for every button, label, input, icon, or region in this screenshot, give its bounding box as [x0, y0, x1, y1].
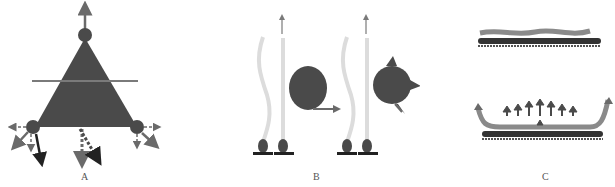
cell-motion-diagram — [205, 0, 420, 187]
right-arrow-icon — [333, 105, 341, 113]
triangle-shape — [35, 38, 137, 127]
left-node-icon — [26, 120, 40, 134]
substrate-bottom — [482, 131, 603, 137]
wavy-layer — [480, 31, 590, 33]
top-node-icon — [78, 28, 92, 42]
wavy-filament — [259, 37, 270, 142]
triangle-diagram — [0, 0, 205, 187]
up-arrow-icon — [279, 14, 285, 20]
sheet-lift-diagram — [420, 0, 615, 187]
panel-c: C — [420, 0, 615, 187]
right-node-icon — [130, 120, 144, 134]
panel-b: B — [205, 0, 420, 187]
spiky-sphere-icon — [373, 66, 411, 104]
panel-a: A — [0, 0, 205, 187]
upward-arrows-icon — [503, 99, 577, 125]
sphere-icon — [289, 66, 327, 110]
substrate-top — [478, 38, 601, 44]
panel-label-b: B — [313, 171, 320, 182]
panel-label-a: A — [81, 171, 88, 182]
panel-label-c: C — [542, 171, 549, 182]
